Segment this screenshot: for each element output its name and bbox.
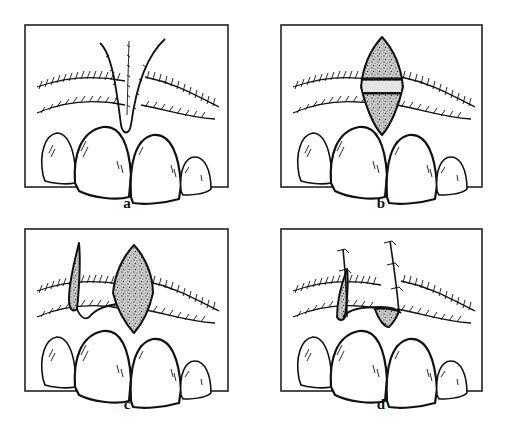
panel-a: a [25,25,228,211]
panel-d-label: d [377,396,386,412]
panel-b-label: b [377,195,385,211]
panel-a-label: a [123,195,131,211]
panel-c-label: c [124,396,131,412]
panel-d: d [281,229,482,412]
panel-b: b [281,25,482,211]
dental-graft-figure: a b c [0,0,508,434]
panel-c: c [25,229,228,412]
